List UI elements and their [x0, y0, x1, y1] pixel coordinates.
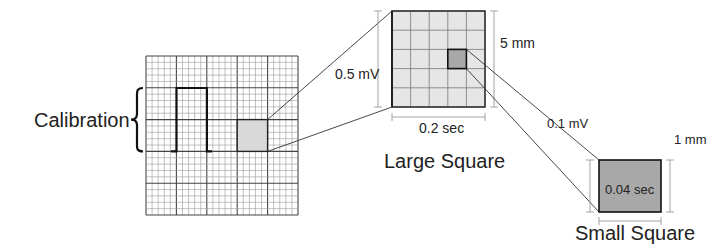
small-square-title: Small Square: [575, 222, 695, 244]
large-square-small-highlight: [448, 49, 467, 68]
small-square-voltage-label: 0.1 mV: [547, 116, 589, 131]
zoom-line-small-top: [466, 49, 599, 160]
large-square-height-label: 5 mm: [500, 35, 535, 51]
large-square-time-label: 0.2 sec: [419, 120, 464, 136]
grid-highlight-square: [237, 120, 267, 152]
zoom-line-small-bottom: [466, 69, 599, 212]
small-square-height-label: 1 mm: [674, 132, 707, 147]
calibration-brace: [131, 88, 143, 151]
large-square: [392, 11, 485, 107]
ecg-paper-grid: [146, 56, 298, 215]
ecg-grid-diagram: Calibration 0.5 mV 5 mm 0.2 sec Large Sq…: [0, 0, 728, 248]
zoom-line-bottom: [268, 107, 392, 151]
calibration-label: Calibration: [34, 109, 130, 131]
small-square-time-label: 0.04 sec: [605, 182, 655, 197]
large-square-voltage-label: 0.5 mV: [335, 66, 380, 82]
large-square-title: Large Square: [384, 150, 505, 172]
